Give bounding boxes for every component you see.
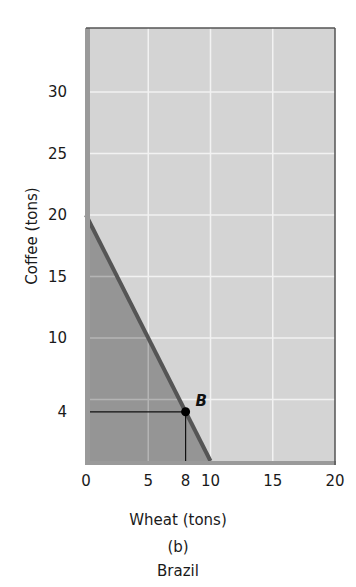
point-b-label: B [196, 392, 207, 410]
y-tick-label: 15 [48, 268, 67, 286]
x-axis-label: Wheat (tons) [0, 511, 356, 529]
x-tick-label: 20 [325, 472, 344, 490]
x-axis [85, 461, 336, 465]
y-tick-label: 30 [48, 83, 67, 101]
x-tick-label: 15 [263, 472, 282, 490]
y-tick-label: 25 [48, 145, 67, 163]
y-axis-label: Coffee (tons) [23, 187, 41, 284]
y-tick-label: 10 [48, 329, 67, 347]
y-tick-label: 20 [48, 206, 67, 224]
ppf-chart: B05810152041015202530Coffee (tons) [0, 0, 356, 587]
y-tick-label: 4 [57, 403, 67, 421]
point-b-marker [181, 407, 190, 416]
x-tick-label: 0 [81, 472, 91, 490]
panel-label: (b) [0, 538, 356, 556]
x-tick-label: 5 [143, 472, 153, 490]
x-tick-label: 8 [181, 472, 191, 490]
x-tick-label: 10 [201, 472, 220, 490]
country-label: Brazil [0, 562, 356, 580]
y-axis [85, 28, 90, 465]
